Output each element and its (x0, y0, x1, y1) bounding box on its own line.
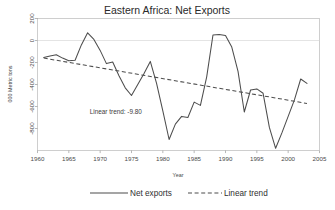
y-tick-label: -800 (28, 122, 35, 135)
legend-label-linear-trend: Linear trend (224, 189, 268, 198)
y-axis-title: 000 Metric tons (7, 65, 13, 102)
y-tick-label: 200 (28, 13, 35, 24)
y-tick-label: -200 (28, 56, 35, 69)
x-tick-label: 2005 (313, 155, 327, 162)
x-tick-label: 1975 (125, 155, 139, 162)
x-tick-label: 1970 (93, 155, 107, 162)
x-tick-label: 1965 (62, 155, 76, 162)
y-tick-label: -400 (28, 78, 35, 91)
x-tick-label: 1995 (250, 155, 264, 162)
x-tick-label: 1960 (31, 155, 45, 162)
x-axis-title: Year (173, 172, 184, 178)
chart-title: Eastern Africa: Net Exports (104, 4, 230, 16)
legend-label-net-exports: Net exports (130, 189, 172, 198)
x-tick-label: 1990 (219, 155, 233, 162)
chart-annotations: Linear trend: -9.80 (90, 108, 143, 115)
y-tick-label: 0 (28, 38, 35, 42)
x-tick-label: 1980 (156, 155, 170, 162)
linear-trend-annotation: Linear trend: -9.80 (90, 108, 143, 115)
x-tick-label: 1985 (187, 155, 201, 162)
chart-container: Eastern Africa: Net Exports 2000-200-400… (0, 0, 335, 210)
chart-background (0, 0, 335, 210)
net-exports-line-chart: Eastern Africa: Net Exports 2000-200-400… (0, 0, 335, 210)
y-tick-label: -600 (28, 100, 35, 113)
x-tick-label: 2000 (281, 155, 295, 162)
